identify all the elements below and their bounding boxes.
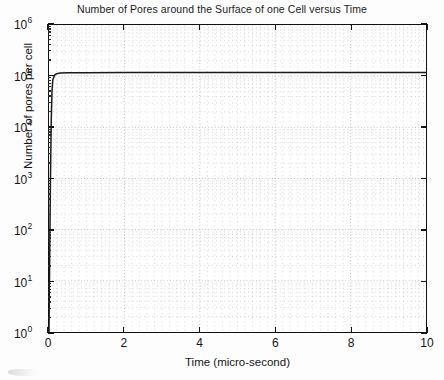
y-axis-minor-tick: [48, 256, 51, 257]
y-axis-tick: [421, 126, 427, 127]
y-axis-tick: [48, 126, 54, 127]
x-tick-label: 10: [407, 336, 444, 350]
y-axis-minor-tick: [48, 26, 51, 27]
y-axis-minor-tick: [48, 308, 51, 309]
figure-canvas: Number of Pores around the Surface of on…: [0, 0, 444, 380]
y-axis-minor-tick: [48, 77, 51, 78]
y-axis-minor-tick: [48, 102, 51, 103]
y-axis-minor-tick: [48, 95, 51, 96]
y-axis-minor-tick: [48, 83, 51, 84]
y-axis-tick: [48, 281, 54, 282]
y-axis-tick: [421, 281, 427, 282]
y-axis-minor-tick: [48, 301, 51, 302]
y-tick-mantissa: 10: [14, 327, 27, 341]
y-axis-minor-tick: [48, 153, 51, 154]
x-tick-label: 0: [28, 336, 68, 350]
y-axis-minor-tick: [48, 205, 51, 206]
y-axis-minor-tick: [48, 147, 51, 148]
y-axis-minor-tick: [48, 241, 51, 242]
y-axis-minor-tick: [48, 189, 51, 190]
y-axis-minor-tick: [48, 162, 51, 163]
y-axis-minor-tick: [48, 180, 51, 181]
y-axis-minor-tick: [48, 50, 51, 51]
y-axis-minor-tick: [48, 193, 51, 194]
y-tick-exponent: 1: [28, 273, 33, 283]
x-axis-tick: [199, 327, 200, 333]
y-axis-minor-tick: [48, 317, 51, 318]
y-axis-minor-tick: [48, 214, 51, 215]
y-axis-minor-tick: [48, 292, 51, 293]
y-axis-tick: [48, 332, 54, 333]
y-tick-exponent: 2: [28, 221, 33, 231]
y-axis-minor-tick: [48, 237, 51, 238]
y-tick-mantissa: 10: [14, 224, 27, 238]
y-axis-minor-tick: [48, 35, 51, 36]
y-axis-tick: [48, 229, 54, 230]
page-title: Number of Pores around the Surface of on…: [0, 3, 444, 15]
y-tick-label: 102: [14, 222, 32, 238]
y-axis-minor-tick: [48, 31, 51, 32]
y-axis-minor-tick: [48, 138, 51, 139]
y-axis-tick: [48, 178, 54, 179]
y-axis-minor-tick: [48, 111, 51, 112]
y-axis-label: Number of pores per cell: [22, 16, 34, 196]
x-axis-tick: [199, 24, 200, 30]
x-axis-tick: [351, 327, 352, 333]
x-tick-label: 6: [255, 336, 295, 350]
y-axis-minor-tick: [48, 86, 51, 87]
y-axis-minor-tick: [48, 59, 51, 60]
y-axis-minor-tick: [48, 183, 51, 184]
y-axis-tick: [421, 229, 427, 230]
x-axis-tick: [123, 327, 124, 333]
y-axis-minor-tick: [48, 232, 51, 233]
y-axis-minor-tick: [48, 289, 51, 290]
y-axis-minor-tick: [48, 283, 51, 284]
x-axis-tick: [275, 24, 276, 30]
y-axis-tick: [421, 332, 427, 333]
y-tick-mantissa: 10: [14, 276, 27, 290]
y-axis-minor-tick: [48, 245, 51, 246]
y-axis-tick: [421, 178, 427, 179]
y-axis-minor-tick: [48, 234, 51, 235]
x-tick-label: 2: [104, 336, 144, 350]
y-axis-minor-tick: [48, 28, 51, 29]
data-series-layer: [49, 25, 426, 332]
y-axis-minor-tick: [48, 296, 51, 297]
y-axis-minor-tick: [48, 134, 51, 135]
y-axis-minor-tick: [48, 286, 51, 287]
y-axis-minor-tick: [48, 186, 51, 187]
plot-area: [48, 24, 427, 333]
y-axis-tick: [48, 75, 54, 76]
y-axis-tick: [48, 23, 54, 24]
y-axis-minor-tick: [48, 44, 51, 45]
y-axis-minor-tick: [48, 198, 51, 199]
y-tick-label: 101: [14, 274, 32, 290]
y-axis-minor-tick: [48, 131, 51, 132]
x-axis-tick: [275, 327, 276, 333]
x-tick-label: 4: [180, 336, 220, 350]
y-axis-minor-tick: [48, 80, 51, 81]
y-axis-tick: [421, 23, 427, 24]
y-axis-tick: [421, 75, 427, 76]
y-tick-exponent: 0: [28, 324, 33, 334]
y-axis-minor-tick: [48, 142, 51, 143]
x-axis-tick: [351, 24, 352, 30]
x-tick-label: 8: [331, 336, 371, 350]
y-axis-minor-tick: [48, 39, 51, 40]
x-axis-label: Time (micro-second): [48, 356, 427, 368]
scan-artifact: [8, 369, 42, 376]
y-axis-minor-tick: [48, 265, 51, 266]
x-axis-tick: [426, 24, 427, 30]
y-axis-minor-tick: [48, 250, 51, 251]
y-axis-minor-tick: [48, 129, 51, 130]
x-axis-tick: [123, 24, 124, 30]
y-axis-minor-tick: [48, 90, 51, 91]
